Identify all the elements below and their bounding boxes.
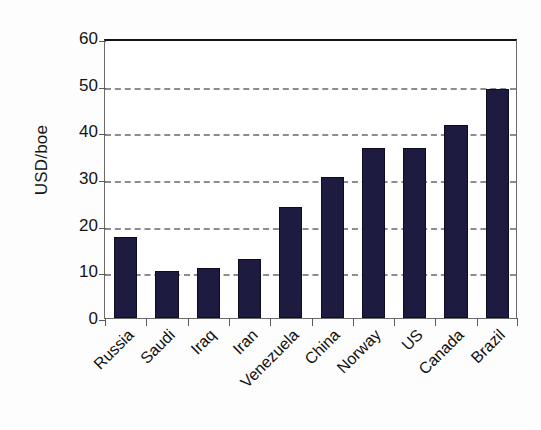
bar[interactable] xyxy=(279,207,302,318)
bar-slot xyxy=(146,41,187,318)
bar-slot xyxy=(105,41,146,318)
y-axis-tick-label: 30 xyxy=(56,170,98,187)
x-axis-tick-mark xyxy=(517,318,518,326)
bar[interactable] xyxy=(403,148,426,318)
bar-slot xyxy=(353,41,394,318)
y-axis-tick-label: 20 xyxy=(56,217,98,234)
y-axis-tick-label: 0 xyxy=(56,310,98,327)
x-axis-category-labels: RussiaSaudiIraqIranVenezuelaChinaNorwayU… xyxy=(104,322,517,430)
bar[interactable] xyxy=(444,125,467,318)
y-axis-title: USD/boe xyxy=(32,100,52,220)
bar-slot xyxy=(477,41,518,318)
bar-slot xyxy=(312,41,353,318)
bar[interactable] xyxy=(155,271,178,318)
y-axis-tick-label: 60 xyxy=(56,30,98,47)
bar-slot xyxy=(188,41,229,318)
y-axis-tick-label: 50 xyxy=(56,77,98,94)
y-axis-tick-label: 40 xyxy=(56,123,98,140)
bar-slot xyxy=(270,41,311,318)
bar-chart: USD/boe 6050403020100 RussiaSaudiIraqIra… xyxy=(0,0,541,430)
bar[interactable] xyxy=(197,268,220,318)
plot-area xyxy=(104,39,517,319)
y-axis-tick-label: 10 xyxy=(56,263,98,280)
bars-layer xyxy=(105,41,516,318)
bar[interactable] xyxy=(238,259,261,318)
bar-slot xyxy=(229,41,270,318)
bar[interactable] xyxy=(486,89,509,318)
bar[interactable] xyxy=(362,148,385,318)
bar[interactable] xyxy=(114,237,137,318)
bar[interactable] xyxy=(321,177,344,318)
bar-slot xyxy=(435,41,476,318)
bar-slot xyxy=(394,41,435,318)
